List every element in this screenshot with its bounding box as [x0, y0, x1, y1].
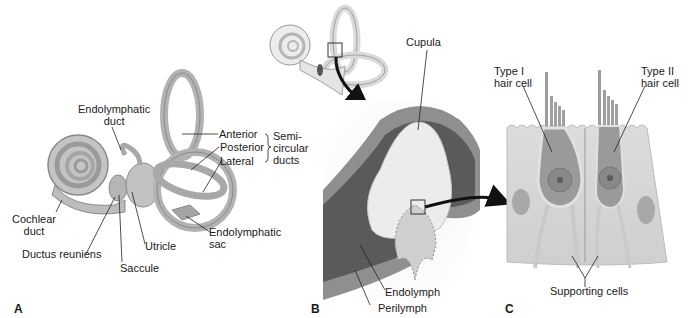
label-utricle: Utricle [145, 240, 176, 252]
label-type-ii-hair-cell: Type II hair cell [641, 65, 679, 89]
label-type-i-hair-cell: Type I hair cell [494, 65, 532, 89]
label-text: hair cell [641, 77, 679, 89]
label-lateral: Lateral [220, 155, 254, 167]
label-text: Endolymphatic [78, 103, 150, 115]
panel-a-labyrinth [48, 73, 233, 228]
label-ductus-reuniens: Ductus reuniens [22, 248, 102, 260]
label-text: duct [12, 225, 56, 237]
label-saccule: Saccule [120, 262, 159, 274]
label-text: sac [209, 238, 281, 250]
label-text: Type II [641, 65, 679, 77]
label-anterior: Anterior [219, 128, 258, 140]
inner-ear-illustration [0, 0, 690, 318]
label-text: hair cell [494, 77, 532, 89]
label-text: Cochlear [12, 213, 56, 225]
panel-letter-a: A [14, 302, 23, 316]
panel-c-hair-cells [507, 70, 667, 268]
label-text: duct [78, 115, 150, 127]
label-endolymphatic-sac: Endolymphatic sac [209, 226, 281, 250]
panel-letter-c: C [505, 302, 514, 316]
label-cupula: Cupula [406, 36, 441, 48]
panel-letter-b: B [311, 302, 320, 316]
label-text: Endolymphatic [209, 226, 281, 238]
label-text: Type I [494, 65, 532, 77]
label-posterior: Posterior [220, 141, 264, 153]
label-semicircular-ducts: Semi- circular ducts [273, 130, 308, 166]
label-text: ducts [273, 154, 308, 166]
label-endolymphatic-duct: Endolymphatic duct [78, 103, 150, 127]
label-perilymph: Perilymph [378, 302, 427, 314]
label-cochlear-duct: Cochlear duct [12, 213, 56, 237]
label-text: circular [273, 142, 308, 154]
label-supporting-cells: Supporting cells [550, 285, 628, 297]
label-text: Semi- [273, 130, 308, 142]
label-endolymph: Endolymph [385, 286, 440, 298]
